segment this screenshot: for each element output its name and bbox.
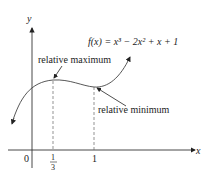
tick-one-label: 1 [92,153,97,164]
origin-label: 0 [24,153,29,164]
tick-third-num: 1 [51,153,55,162]
max-pointer-arrow [54,66,62,78]
relative-min-label: relative minimum [98,104,170,115]
function-graph-figure: y x f(x) = x³ − 2x² + x + 1 relative max… [0,0,203,183]
y-axis-label: y [26,13,32,24]
tick-third-den: 3 [51,163,55,172]
x-axis-label: x [195,145,201,156]
relative-max-label: relative maximum [38,54,111,65]
function-label: f(x) = x³ − 2x² + x + 1 [88,36,178,48]
